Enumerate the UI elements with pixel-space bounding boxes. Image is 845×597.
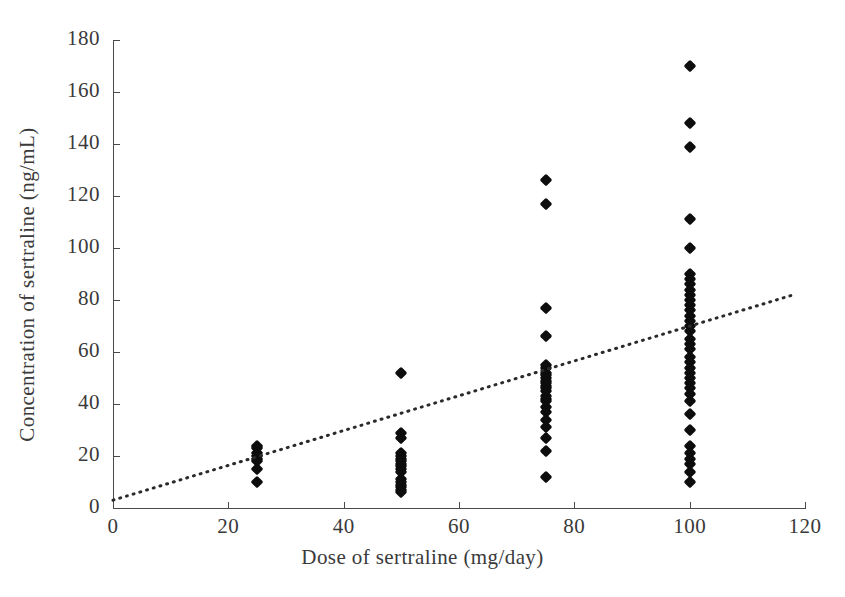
trend-line-layer xyxy=(0,0,845,597)
regression-trend-line xyxy=(113,295,793,500)
scatter-plot-figure: 020406080100120140160180 020406080100120… xyxy=(0,0,845,597)
x-axis-title: Dose of sertraline (mg/day) xyxy=(0,545,845,570)
y-axis-title: Concentration of sertraline (ng/mL) xyxy=(15,5,40,565)
